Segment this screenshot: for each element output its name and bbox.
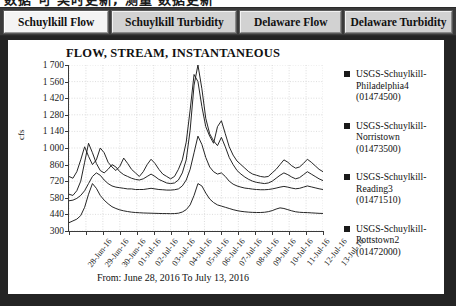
x-tick-mark bbox=[120, 231, 121, 235]
tab-label: Schuylkill Turbidity bbox=[125, 16, 224, 28]
tab-delaware-flow[interactable]: Delaware Flow bbox=[240, 11, 341, 33]
y-tick-label: 1 280 bbox=[43, 110, 64, 120]
x-tick-mark bbox=[188, 231, 189, 235]
series-line bbox=[69, 74, 323, 178]
x-tick-mark bbox=[255, 231, 256, 235]
chart-legend: USGS-Schuylkill- Philadelphia4 (01474500… bbox=[344, 68, 444, 274]
legend-label-line2: Norristown bbox=[356, 131, 444, 143]
x-tick-mark bbox=[272, 231, 273, 235]
legend-swatch-icon bbox=[344, 226, 350, 232]
y-tick-mark bbox=[65, 214, 69, 215]
y-tick-label: 1 420 bbox=[43, 93, 64, 103]
truncated-header-text: 数据 可 実时更新, 测量 数据更新 bbox=[4, 0, 214, 7]
tab-schuylkill-flow[interactable]: Schuylkill Flow bbox=[4, 11, 108, 33]
tab-delaware-turbidity[interactable]: Delaware Turbidity bbox=[345, 11, 452, 33]
legend-label-line2: Pottstown2 bbox=[356, 234, 444, 246]
legend-swatch-icon bbox=[344, 174, 350, 180]
screenshot-root: 数据 可 実时更新, 测量 数据更新 Schuylkill Flow Schuy… bbox=[0, 0, 456, 306]
x-tick-mark bbox=[323, 231, 324, 235]
legend-gauge-code: (01472000) bbox=[356, 246, 444, 258]
x-tick-mark bbox=[204, 231, 205, 235]
legend-label: USGS-Schuylkill- bbox=[356, 120, 426, 131]
y-tick-label: 1 140 bbox=[43, 126, 64, 136]
y-tick-label: 1 560 bbox=[43, 77, 64, 87]
legend-swatch-icon bbox=[344, 123, 350, 129]
legend-gauge-code: (01471510) bbox=[356, 194, 444, 206]
y-tick-label: 1 700 bbox=[43, 60, 64, 70]
tab-label: Delaware Flow bbox=[254, 16, 328, 28]
tab-schuylkill-turbidity[interactable]: Schuylkill Turbidity bbox=[112, 11, 236, 33]
legend-label: USGS-Schuylkill- bbox=[356, 223, 426, 234]
x-tick-mark bbox=[238, 231, 239, 235]
x-tick-mark bbox=[154, 231, 155, 235]
x-tick-mark bbox=[69, 231, 70, 235]
truncated-header-strip: 数据 可 実时更新, 测量 数据更新 bbox=[0, 0, 456, 7]
legend-label: USGS-Schuylkill- bbox=[356, 171, 426, 182]
series-line bbox=[69, 184, 323, 223]
y-tick-mark bbox=[65, 115, 69, 116]
series-line bbox=[69, 136, 323, 201]
legend-item[interactable]: USGS-Schuylkill- Reading3 (01471510) bbox=[344, 171, 444, 206]
series-line bbox=[69, 65, 323, 195]
legend-label: USGS-Schuylkill- bbox=[356, 68, 426, 79]
x-tick-mark bbox=[86, 231, 87, 235]
y-tick-label: 720 bbox=[50, 176, 64, 186]
x-tick-mark bbox=[221, 231, 222, 235]
y-tick-mark bbox=[65, 148, 69, 149]
date-range-caption: From: June 28, 2016 To July 13, 2016 bbox=[8, 272, 338, 283]
tab-label: Delaware Turbidity bbox=[351, 16, 447, 28]
y-tick-mark bbox=[65, 82, 69, 83]
legend-item[interactable]: USGS-Schuylkill- Pottstown2 (01472000) bbox=[344, 223, 444, 258]
chart-panel: FLOW, STREAM, INSTANTANEOUS cfs 30044058… bbox=[8, 40, 444, 294]
y-tick-mark bbox=[65, 65, 69, 66]
gridlines bbox=[69, 65, 323, 231]
chart-frame: FLOW, STREAM, INSTANTANEOUS cfs 30044058… bbox=[0, 36, 456, 306]
y-axis-label: cfs bbox=[16, 130, 26, 141]
tab-label: Schuylkill Flow bbox=[18, 16, 94, 28]
x-tick-mark bbox=[171, 231, 172, 235]
legend-swatch-icon bbox=[344, 71, 350, 77]
legend-label-line2: Philadelphia4 bbox=[356, 80, 444, 92]
legend-item[interactable]: USGS-Schuylkill- Norristown (01473500) bbox=[344, 120, 444, 155]
chart-title: FLOW, STREAM, INSTANTANEOUS bbox=[8, 46, 338, 61]
plot-area: 3004405807208601 0001 1401 2801 4201 560… bbox=[68, 65, 323, 232]
x-tick-mark bbox=[103, 231, 104, 235]
x-tick-mark bbox=[306, 231, 307, 235]
y-tick-label: 300 bbox=[50, 226, 64, 236]
data-series-group bbox=[69, 65, 323, 223]
x-tick-mark bbox=[137, 231, 138, 235]
y-tick-mark bbox=[65, 98, 69, 99]
x-tick-mark bbox=[289, 231, 290, 235]
plot-svg bbox=[69, 65, 323, 231]
y-tick-mark bbox=[65, 165, 69, 166]
y-tick-mark bbox=[65, 131, 69, 132]
legend-item[interactable]: USGS-Schuylkill- Philadelphia4 (01474500… bbox=[344, 68, 444, 103]
y-tick-label: 440 bbox=[50, 209, 64, 219]
tab-bar: Schuylkill Flow Schuylkill Turbidity Del… bbox=[0, 7, 456, 36]
y-tick-label: 860 bbox=[50, 160, 64, 170]
legend-gauge-code: (01473500) bbox=[356, 143, 444, 155]
legend-gauge-code: (01474500) bbox=[356, 91, 444, 103]
legend-label-line2: Reading3 bbox=[356, 183, 444, 195]
y-tick-mark bbox=[65, 181, 69, 182]
y-tick-mark bbox=[65, 198, 69, 199]
y-tick-label: 580 bbox=[50, 193, 64, 203]
y-tick-label: 1 000 bbox=[43, 143, 64, 153]
